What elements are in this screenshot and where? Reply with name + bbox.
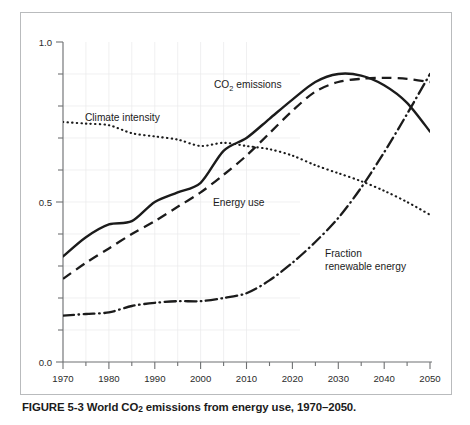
x-tick-label: 1990 xyxy=(144,373,165,384)
figure-page: 1.0 0.5 0.0 1970 1980 1990 2000 2010 202… xyxy=(0,0,470,425)
x-tick-label: 2040 xyxy=(374,373,395,384)
y-tick-label: 0.0 xyxy=(39,357,52,368)
annotation-climate-intensity: Climate intensity xyxy=(85,112,161,123)
x-tick-label: 2030 xyxy=(328,373,349,384)
y-tick-label: 1.0 xyxy=(39,37,52,48)
annotation-fraction-renewable-line2: renewable energy xyxy=(325,261,407,272)
x-tick-label: 2010 xyxy=(236,373,257,384)
x-axis-tick-labels: 1970 1980 1990 2000 2010 2020 2030 2040 … xyxy=(52,373,440,384)
caption-part-b: emissions from energy use, 1970–2050. xyxy=(143,401,356,413)
x-tick-label: 1980 xyxy=(98,373,119,384)
series-annotations: CO2 emissions Climate intensity Energy u… xyxy=(85,79,407,272)
annotation-energy-use: Energy use xyxy=(213,197,265,208)
x-axis-ticks xyxy=(63,362,430,369)
caption-part-a: FIGURE 5-3 World CO xyxy=(22,401,138,413)
y-axis-ticks xyxy=(56,42,63,362)
chart-canvas: 1.0 0.5 0.0 1970 1980 1990 2000 2010 202… xyxy=(0,0,470,425)
annotation-fraction-renewable-line1: Fraction xyxy=(325,248,362,259)
figure-caption: FIGURE 5-3 World CO2 emissions from ener… xyxy=(22,401,462,414)
annotation-co2-emissions: CO2 emissions xyxy=(214,79,282,93)
x-tick-label: 1970 xyxy=(52,373,73,384)
y-tick-label: 0.5 xyxy=(39,197,52,208)
x-tick-label: 2000 xyxy=(190,373,211,384)
x-tick-label: 2020 xyxy=(282,373,303,384)
y-axis-tick-labels: 1.0 0.5 0.0 xyxy=(39,37,52,368)
x-tick-label: 2050 xyxy=(419,373,440,384)
